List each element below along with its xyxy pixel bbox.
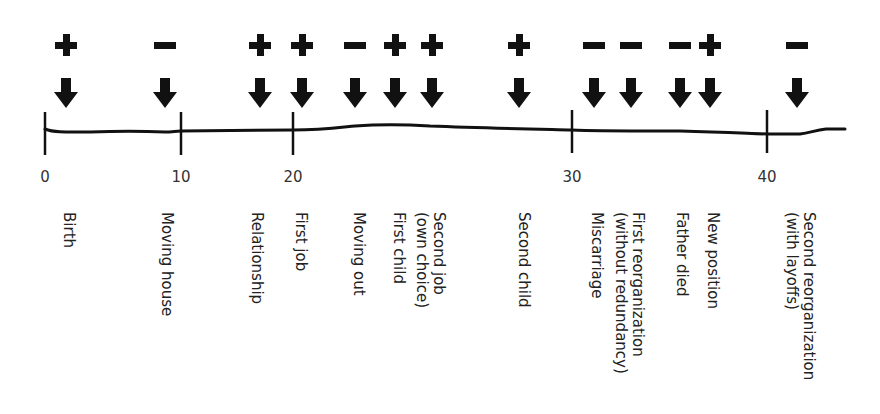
- down-arrow-icon: [290, 78, 314, 108]
- event-label: Father died: [673, 212, 690, 296]
- minus-icon: [154, 34, 176, 56]
- tick-label: 30: [562, 168, 581, 186]
- down-arrow-icon: [785, 78, 809, 108]
- minus-icon: [344, 34, 366, 56]
- timeline-axis: [0, 0, 880, 414]
- event-label: Moving house: [158, 212, 175, 316]
- plus-icon: [421, 34, 443, 56]
- minus-icon: [583, 34, 605, 56]
- down-arrow-icon: [383, 78, 407, 108]
- minus-icon: [620, 34, 642, 56]
- plus-icon: [291, 34, 313, 56]
- timeline-line: [45, 125, 845, 135]
- plus-icon: [699, 34, 721, 56]
- plus-icon: [508, 34, 530, 56]
- down-arrow-icon: [343, 78, 367, 108]
- tick-label: 10: [171, 168, 190, 186]
- event-label: First child: [390, 212, 407, 284]
- plus-icon: [384, 34, 406, 56]
- down-arrow-icon: [698, 78, 722, 108]
- minus-icon: [669, 34, 691, 56]
- tick-label: 40: [757, 168, 776, 186]
- event-label: Second child: [515, 212, 532, 308]
- down-arrow-icon: [54, 78, 78, 108]
- event-label: First job: [292, 212, 309, 271]
- event-label: First reorganization (without redundancy…: [612, 212, 646, 374]
- event-label: Miscarriage: [588, 212, 605, 299]
- event-label: Second reorganization (with layoffs): [783, 212, 817, 380]
- plus-icon: [55, 34, 77, 56]
- tick-label: 20: [283, 168, 302, 186]
- event-label: New position: [704, 212, 721, 309]
- minus-icon: [786, 34, 808, 56]
- event-label: Moving out: [350, 212, 367, 296]
- event-label: Birth: [60, 212, 77, 248]
- event-label: Second job (own choice): [413, 212, 447, 308]
- down-arrow-icon: [582, 78, 606, 108]
- down-arrow-icon: [420, 78, 444, 108]
- plus-icon: [249, 34, 271, 56]
- tick-label: 0: [40, 168, 50, 186]
- event-label: Relationship: [248, 212, 265, 304]
- down-arrow-icon: [248, 78, 272, 108]
- down-arrow-icon: [668, 78, 692, 108]
- down-arrow-icon: [507, 78, 531, 108]
- down-arrow-icon: [153, 78, 177, 108]
- life-events-timeline: 0 10 20 30 40 BirthMoving houseRelations…: [0, 0, 880, 414]
- down-arrow-icon: [619, 78, 643, 108]
